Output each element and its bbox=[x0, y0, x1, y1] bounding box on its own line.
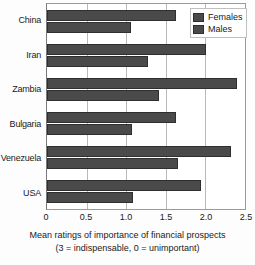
x-tick-label: 2.0 bbox=[200, 212, 213, 222]
category-axis: China Iran Zambia Bulgaria Venezuela USA bbox=[0, 3, 44, 210]
x-tick-label: 2.5 bbox=[240, 212, 253, 222]
bar-china-females[interactable] bbox=[47, 10, 176, 21]
legend-swatch-males-icon bbox=[193, 25, 204, 34]
bar-bulgaria-males[interactable] bbox=[47, 124, 132, 135]
bar-iran-females[interactable] bbox=[47, 44, 206, 55]
category-label-zambia: Zambia bbox=[0, 72, 44, 107]
bar-china-males[interactable] bbox=[47, 22, 131, 33]
x-tick-label: 1.0 bbox=[120, 212, 133, 222]
legend-item-males[interactable]: Males bbox=[193, 23, 243, 35]
x-tick-label: 0 bbox=[43, 212, 48, 222]
bar-iran-males[interactable] bbox=[47, 56, 148, 67]
category-label-iran: Iran bbox=[0, 38, 44, 73]
bar-zambia-males[interactable] bbox=[47, 90, 159, 101]
x-axis-title-line1: Mean ratings of importance of financial … bbox=[29, 230, 225, 240]
category-label-usa: USA bbox=[0, 176, 44, 211]
x-axis-title: Mean ratings of importance of financial … bbox=[0, 229, 255, 255]
x-tick-label: 1.5 bbox=[160, 212, 173, 222]
category-label-china: China bbox=[0, 3, 44, 38]
legend-label-females: Females bbox=[208, 12, 243, 22]
legend-item-females[interactable]: Females bbox=[193, 11, 243, 23]
x-tick-label: 0.5 bbox=[80, 212, 93, 222]
bar-zambia-females[interactable] bbox=[47, 78, 237, 89]
category-label-venezuela: Venezuela bbox=[0, 141, 44, 176]
bar-venezuela-females[interactable] bbox=[47, 146, 231, 157]
category-label-bulgaria: Bulgaria bbox=[0, 107, 44, 142]
legend-label-males: Males bbox=[208, 24, 232, 34]
bar-bulgaria-females[interactable] bbox=[47, 112, 176, 123]
x-axis-title-line2: (3 = indispensable, 0 = unimportant) bbox=[0, 242, 255, 255]
legend-swatch-females-icon bbox=[193, 13, 204, 22]
bar-group bbox=[47, 107, 245, 141]
x-axis-tick-labels: 00.51.01.52.02.5 bbox=[46, 212, 246, 226]
bar-chart-figure: China Iran Zambia Bulgaria Venezuela USA… bbox=[0, 0, 255, 265]
bar-usa-females[interactable] bbox=[47, 180, 201, 191]
bar-group bbox=[47, 141, 245, 175]
bar-venezuela-males[interactable] bbox=[47, 158, 178, 169]
bar-group bbox=[47, 38, 245, 72]
bar-group bbox=[47, 175, 245, 209]
bar-group bbox=[47, 72, 245, 106]
chart-legend: Females Males bbox=[190, 8, 247, 38]
bar-usa-males[interactable] bbox=[47, 192, 133, 203]
